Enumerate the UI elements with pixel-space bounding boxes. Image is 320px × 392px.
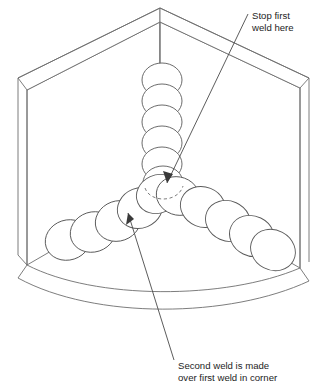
stop-first-weld-label: Stop first weld here: [251, 10, 294, 33]
second-weld-line2: over first weld in corner: [178, 372, 278, 383]
stop-first-weld-line1: Stop first: [252, 10, 290, 21]
floor-left-cap: [18, 265, 27, 278]
stop-first-weld-line2: weld here: [251, 22, 294, 33]
weld-diagram-svg: Stop first weld here Second weld is made…: [0, 0, 320, 392]
second-weld-label: Second weld is made over first weld in c…: [178, 360, 278, 383]
weld-diagram-canvas: Stop first weld here Second weld is made…: [0, 0, 320, 392]
left-panel-outer-edge: [18, 78, 27, 265]
floor-right-cap: [300, 268, 309, 281]
floor-arc-outer: [18, 278, 309, 309]
floor-arc-inner: [27, 265, 300, 292]
second-weld-line1: Second weld is made: [178, 360, 269, 371]
